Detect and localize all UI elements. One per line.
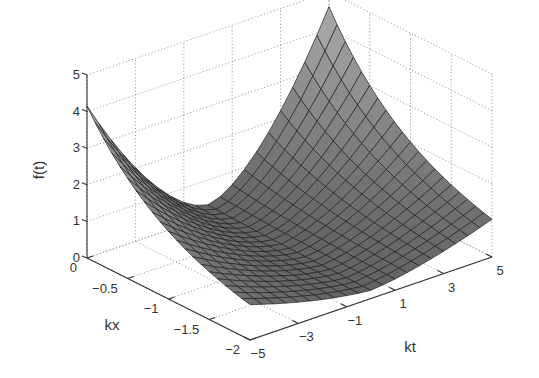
z-axis-label: f(t) (30, 161, 47, 179)
kt-tick-label: −3 (299, 329, 314, 344)
z-tick-label: 4 (73, 104, 80, 119)
kt-tick-label: 3 (448, 280, 455, 295)
kt-tick-label: 1 (400, 296, 407, 311)
kx-tick-label: −2 (225, 342, 240, 357)
surface-mesh (87, 7, 492, 305)
kx-axis-label: kx (105, 316, 121, 333)
kx-tick-label: −1 (144, 301, 159, 316)
z-tick-label: 3 (73, 140, 80, 155)
z-tick-label: 5 (73, 67, 80, 82)
z-tick-label: 1 (73, 213, 80, 228)
kt-tick-label: −5 (251, 346, 266, 361)
kt-tick-label: −1 (347, 313, 362, 328)
kt-axis-label: kt (404, 338, 417, 355)
kt-tick-label: 5 (496, 263, 503, 278)
kx-tick-label: 0 (70, 260, 77, 275)
kx-tick-label: −1.5 (174, 322, 200, 337)
surface-plot: 0123450−0.5−1−1.5−2−5−3−1135 f(t) kx kt (0, 0, 539, 378)
z-tick-label: 2 (73, 177, 80, 192)
kx-tick-label: −0.5 (92, 281, 118, 296)
